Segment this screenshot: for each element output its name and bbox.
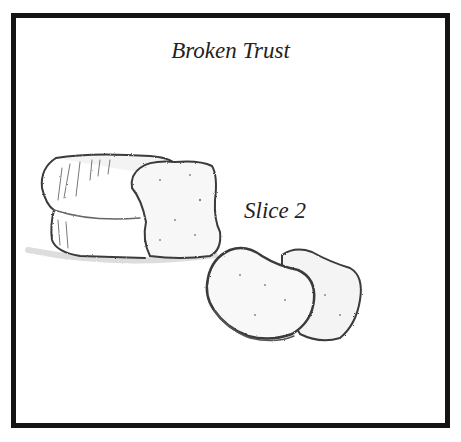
bread-sketch-icon	[0, 0, 461, 442]
figure-caption	[0, 431, 461, 442]
